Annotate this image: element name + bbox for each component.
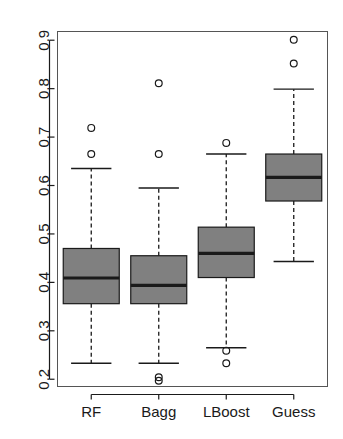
- x-axis-category-label-lboost: LBoost: [203, 403, 251, 420]
- box-iqr: [63, 248, 119, 303]
- boxplot-canvas: 0.20.30.40.50.60.70.80.9RFBaggLBoostGues…: [0, 0, 343, 439]
- y-axis-tick-label: 0.9: [35, 30, 52, 51]
- outlier-point: [88, 151, 95, 158]
- box-group-rf: [63, 124, 119, 363]
- outlier-point: [155, 151, 162, 158]
- y-axis-tick-label: 0.7: [35, 127, 52, 148]
- y-axis-tick-label: 0.5: [35, 224, 52, 245]
- box-group-lboost: [198, 139, 254, 366]
- outlier-point: [290, 60, 297, 67]
- boxplot-chart: 0.20.30.40.50.60.70.80.9RFBaggLBoostGues…: [0, 0, 343, 439]
- x-axis-category-label-bagg: Bagg: [141, 403, 176, 420]
- y-axis-tick-label: 0.6: [35, 175, 52, 196]
- y-axis-tick-label: 0.3: [35, 320, 52, 341]
- outlier-point: [88, 124, 95, 131]
- y-axis-tick-label: 0.8: [35, 78, 52, 99]
- outlier-point: [290, 36, 297, 43]
- box-group-bagg: [131, 80, 187, 384]
- outlier-point: [223, 360, 230, 367]
- outlier-point: [155, 80, 162, 87]
- box-group-guess: [266, 36, 322, 261]
- outlier-point: [223, 139, 230, 146]
- x-axis-category-label-guess: Guess: [272, 403, 315, 420]
- plot-frame: [58, 32, 328, 387]
- x-axis-category-label-rf: RF: [81, 403, 101, 420]
- box-iqr: [131, 256, 187, 304]
- y-axis-tick-label: 0.2: [35, 369, 52, 390]
- y-axis-tick-label: 0.4: [35, 272, 52, 293]
